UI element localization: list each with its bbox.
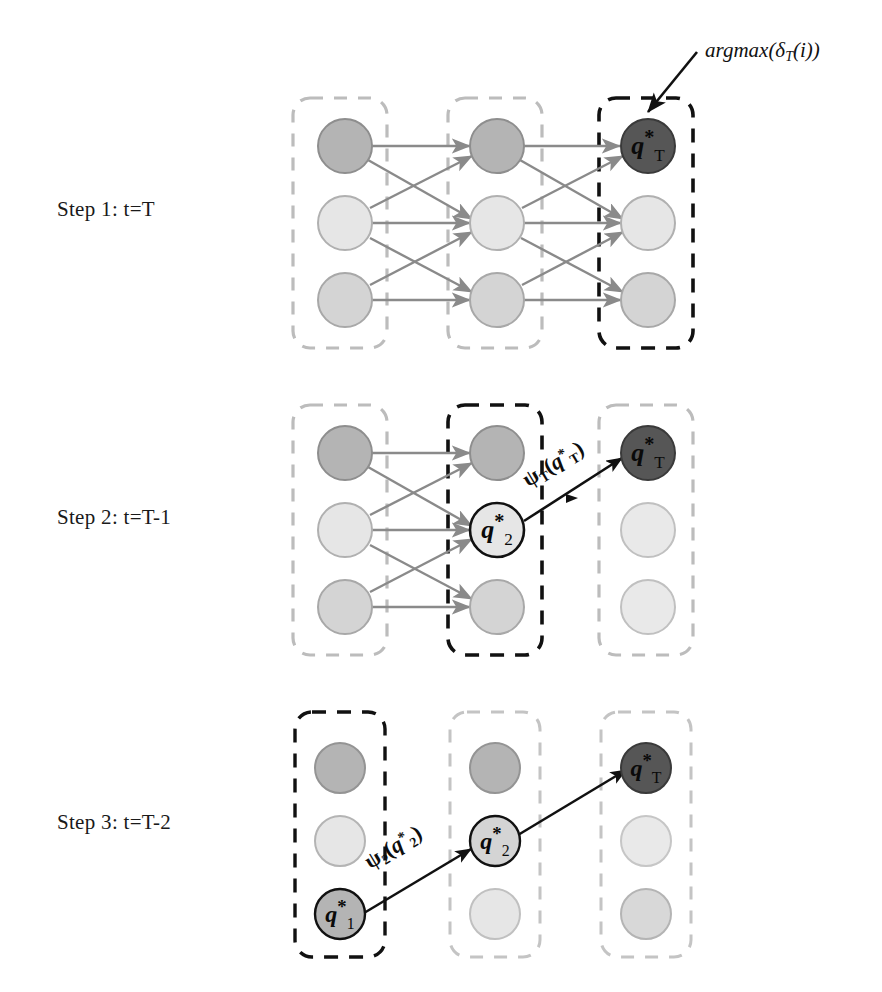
argmax-annotation: argmax(δT(i)) <box>705 38 820 65</box>
panel1-node-c3-r3 <box>621 273 675 327</box>
panel3-node-c2-r1 <box>470 743 520 793</box>
panel3-node-c1-r1 <box>315 743 365 793</box>
panel1-node-c1-r1 <box>318 119 372 173</box>
panel2-node-c3-r3 <box>621 580 675 634</box>
panel2-node-c1-r2 <box>318 503 372 557</box>
panel1-node-c1-r2 <box>318 196 372 250</box>
panel2-node-c3-r1 <box>621 426 675 480</box>
panel3-node-c1-r2 <box>315 816 365 866</box>
panel2-node-c1-r3 <box>318 580 372 634</box>
panel2-edges-stage-1 <box>368 453 472 607</box>
argmax-pointer-arrow <box>648 52 697 112</box>
panel-step-1 <box>293 52 697 348</box>
argmax-subscript: T <box>785 49 793 64</box>
panel2-node-c1-r1 <box>318 426 372 480</box>
panel2-node-c2-r2 <box>470 503 524 557</box>
panel1-node-c2-r2 <box>470 196 524 250</box>
panel1-edges-stage-2 <box>520 146 623 300</box>
panel3-node-c2-r3 <box>470 889 520 939</box>
panel3-node-c3-r3 <box>621 889 671 939</box>
panel1-node-c1-r3 <box>318 273 372 327</box>
argmax-prefix: argmax(δ <box>705 38 785 62</box>
panel1-node-c3-r2 <box>621 196 675 250</box>
panel1-edges-stage-1 <box>368 146 472 300</box>
panel3-highlight-path-to-qT <box>518 770 626 835</box>
panel2-node-c2-r3 <box>470 580 524 634</box>
panel1-node-c2-r3 <box>470 273 524 327</box>
panel1-node-c2-r1 <box>470 119 524 173</box>
step-2-label: Step 2: t=T-1 <box>57 505 171 530</box>
panel2-node-c2-r1 <box>470 426 524 480</box>
panel3-node-c3-r2 <box>621 816 671 866</box>
panel3-node-c1-r3 <box>315 889 365 939</box>
argmax-suffix: (i)) <box>793 38 820 62</box>
panel2-midpoint-arrowhead <box>566 494 578 503</box>
panel-step-2 <box>293 405 693 655</box>
panel2-node-c3-r2 <box>621 503 675 557</box>
step-3-label: Step 3: t=T-2 <box>57 810 171 835</box>
panel3-node-c2-r2 <box>470 816 520 866</box>
panel3-node-c3-r1 <box>621 743 671 793</box>
panel-step-3 <box>295 712 691 957</box>
diagram-canvas <box>0 0 882 992</box>
step-1-label: Step 1: t=T <box>57 197 155 222</box>
panel1-node-c3-r1 <box>621 119 675 173</box>
